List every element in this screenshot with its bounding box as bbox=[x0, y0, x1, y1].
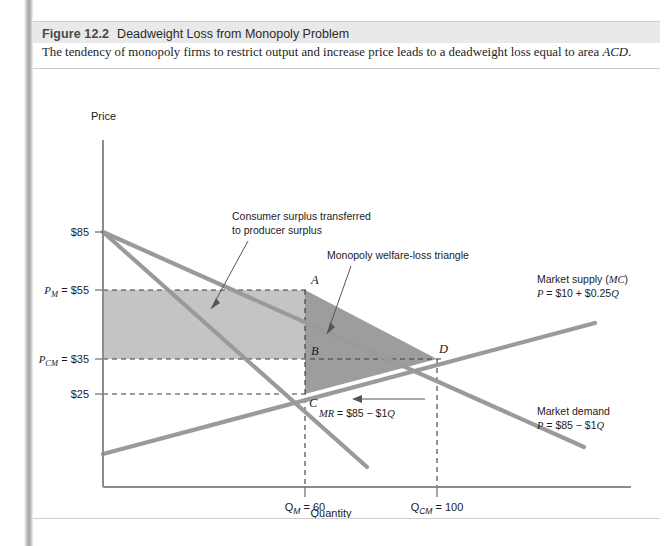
market-demand-eq-q: Q bbox=[597, 420, 605, 431]
y-tick-label-pcm-value: = $35 bbox=[58, 353, 89, 365]
market-supply-label-line1: Market supply (MC) bbox=[537, 273, 628, 285]
caption-text-main: The tendency of monopoly firms to restri… bbox=[42, 45, 602, 59]
page-title: Deadweight Loss from Monopoly Problem bbox=[117, 27, 349, 41]
y-tick-label-85: $85 bbox=[71, 226, 89, 238]
marginal-revenue-equation: MR = $85 − $1Q bbox=[318, 407, 395, 419]
market-demand-equation: P = $85 − $1Q bbox=[536, 419, 605, 431]
caption-text-end: . bbox=[628, 45, 631, 59]
market-supply-label-mc: MC bbox=[608, 274, 626, 285]
chart-plot-area: Price Quantity $85 PM = $55 PCM = $35 $2… bbox=[33, 69, 660, 518]
y-axis-label: Price bbox=[91, 110, 116, 122]
monopoly-welfare-loss-region bbox=[305, 290, 437, 394]
figure-panel: Figure 12.2Deadweight Loss from Monopoly… bbox=[33, 21, 660, 519]
y-tick-label-pcm-subscript: CM bbox=[45, 358, 59, 368]
caption-area-ref: ACD bbox=[602, 45, 628, 59]
annotation-consumer-surplus-line1: Consumer surplus transferred bbox=[232, 210, 371, 222]
mr-eq-q: Q bbox=[387, 408, 395, 419]
market-supply-eq-body: = $10 + $0.25 bbox=[543, 287, 611, 299]
mr-eq-symbol: MR bbox=[318, 408, 335, 419]
monopoly-deadweight-loss-chart: Price Quantity $85 PM = $55 PCM = $35 $2… bbox=[33, 69, 660, 518]
point-label-a: A bbox=[310, 273, 319, 287]
y-tick-label-pm: PM = $55 bbox=[43, 284, 89, 299]
annotation-consumer-surplus-line2: to producer surplus bbox=[232, 224, 322, 236]
figure-title-row: Figure 12.2Deadweight Loss from Monopoly… bbox=[42, 24, 349, 42]
x-tick-label-qcm-subscript: CM bbox=[419, 506, 433, 516]
market-supply-eq-q: Q bbox=[611, 288, 619, 299]
page-scan-shadow bbox=[24, 0, 33, 546]
output-restriction-arrowhead bbox=[352, 395, 362, 403]
x-tick-label-qcm: QCM = 100 bbox=[411, 501, 464, 516]
market-demand-eq-body: = $85 − $1 bbox=[543, 419, 596, 431]
point-label-b: B bbox=[311, 344, 319, 358]
figure-caption: The tendency of monopoly firms to restri… bbox=[42, 45, 652, 60]
y-tick-label-pcm: PCM = $35 bbox=[38, 353, 89, 368]
market-supply-label-pre: Market supply ( bbox=[537, 273, 609, 285]
mr-eq-body: = $85 − $1 bbox=[334, 407, 387, 419]
x-tick-label-qcm-value: = 100 bbox=[432, 501, 463, 513]
market-demand-label: Market demand bbox=[537, 405, 610, 417]
y-tick-label-pm-value: = $55 bbox=[58, 284, 89, 296]
point-label-c: C bbox=[309, 396, 318, 410]
market-supply-equation: P = $10 + $0.25Q bbox=[536, 287, 619, 299]
y-tick-label-25: $25 bbox=[71, 388, 89, 400]
annotation-welfare-loss-triangle: Monopoly welfare-loss triangle bbox=[327, 249, 469, 261]
x-tick-label-qm-value: = 60 bbox=[300, 501, 325, 513]
market-supply-label-post: ) bbox=[625, 273, 629, 285]
point-label-d: D bbox=[438, 342, 448, 356]
figure-number: Figure 12.2 bbox=[42, 27, 109, 41]
